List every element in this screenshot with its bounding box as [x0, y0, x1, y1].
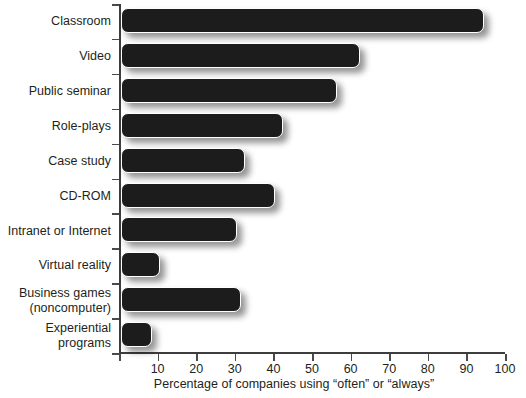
x-axis-tick-label: 60	[344, 362, 358, 376]
x-axis-tick	[505, 354, 507, 361]
bar[interactable]	[121, 113, 283, 138]
y-axis-tick	[112, 248, 119, 250]
category-label-line: Intranet or Internet	[8, 224, 111, 239]
x-axis-tick-label: 80	[421, 362, 435, 376]
y-axis-tick	[112, 144, 119, 146]
category-label: Intranet or Internet	[0, 213, 111, 248]
category-label: Case study	[0, 144, 111, 179]
x-axis-tick	[273, 354, 275, 361]
bar[interactable]	[121, 287, 241, 312]
x-axis-tick	[466, 354, 468, 361]
x-axis-tick	[312, 354, 314, 361]
category-label: Video	[0, 39, 111, 74]
category-label: CD-ROM	[0, 179, 111, 214]
bar-track	[119, 318, 525, 353]
category-label-line: Virtual reality	[39, 258, 111, 273]
bar-track	[119, 179, 525, 214]
category-label: Classroom	[0, 4, 111, 39]
y-axis-tick	[112, 4, 119, 6]
bar-track	[119, 4, 525, 39]
bar-track	[119, 74, 525, 109]
bar-track	[119, 213, 525, 248]
category-label: Role-plays	[0, 109, 111, 144]
category-label-line: Experiential	[45, 321, 111, 336]
bar[interactable]	[121, 322, 152, 347]
category-label: Business games(noncomputer)	[0, 283, 111, 318]
x-axis-tick	[235, 354, 237, 361]
bar[interactable]	[121, 78, 337, 103]
x-axis-tick	[196, 354, 198, 361]
x-axis-tick-label: 90	[459, 362, 473, 376]
y-axis-tick	[112, 109, 119, 111]
category-label-line: Case study	[48, 154, 111, 169]
bar-chart: ClassroomVideoPublic seminarRole-playsCa…	[0, 0, 526, 398]
x-axis-tick	[119, 354, 121, 361]
bar[interactable]	[121, 183, 275, 208]
x-axis-tick-label: 50	[305, 362, 319, 376]
bar-track	[119, 283, 525, 318]
bar-track	[119, 248, 525, 283]
bar-track	[119, 39, 525, 74]
bar[interactable]	[121, 148, 245, 173]
y-axis-tick	[112, 179, 119, 181]
category-label-line: CD-ROM	[60, 189, 112, 204]
x-axis-tick-label: 30	[228, 362, 242, 376]
y-axis-tick	[112, 353, 119, 355]
y-axis-tick	[112, 74, 119, 76]
bar[interactable]	[121, 43, 360, 68]
x-axis-title: Percentage of companies using “often” or…	[0, 377, 526, 391]
category-label-line: Business games	[19, 286, 111, 301]
bar-track	[119, 109, 525, 144]
x-axis-tick	[158, 354, 160, 361]
x-axis-tick	[428, 354, 430, 361]
x-axis-tick-label: 40	[266, 362, 280, 376]
x-axis-tick-label: 10	[151, 362, 165, 376]
bar[interactable]	[121, 8, 484, 33]
category-label-line: Classroom	[51, 14, 111, 29]
y-axis-tick	[112, 39, 119, 41]
x-axis-tick-label: 20	[189, 362, 203, 376]
bar-track	[119, 144, 525, 179]
category-label: Virtual reality	[0, 248, 111, 283]
bar[interactable]	[121, 252, 160, 277]
x-axis-tick-label: 70	[382, 362, 396, 376]
y-axis-tick	[112, 318, 119, 320]
bar[interactable]	[121, 217, 237, 242]
category-label: Experientialprograms	[0, 318, 111, 353]
x-axis-tick	[389, 354, 391, 361]
category-label-line: Public seminar	[29, 84, 111, 99]
category-label-line: Video	[79, 49, 111, 64]
x-axis-title-text: Percentage of companies using “often” or…	[154, 377, 434, 391]
x-axis-tick-label: 100	[495, 362, 516, 376]
y-axis-tick	[112, 283, 119, 285]
category-label-line: (noncomputer)	[19, 301, 111, 316]
x-axis-tick	[351, 354, 353, 361]
category-label-line: programs	[45, 336, 111, 351]
category-label-line: Role-plays	[52, 119, 111, 134]
y-axis-tick	[112, 213, 119, 215]
category-label: Public seminar	[0, 74, 111, 109]
